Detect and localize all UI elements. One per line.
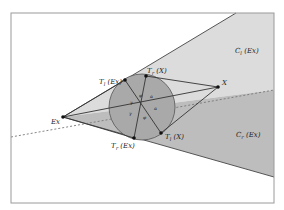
angle-alpha-2: α [154,106,157,111]
label-x: X [221,79,228,87]
angle-gamma-1: γ [130,100,133,105]
label-ex: Ex [50,118,60,126]
label-region-cr: Cr (Ex) [236,131,261,140]
label-tr-x: Tr (X) [147,67,167,76]
point-x [216,85,220,89]
label-tl-ex: Tl (Ex) [99,78,122,87]
label-tr-ex: Tr (Ex) [111,142,135,151]
point-tl-x [159,131,163,135]
point-ex [61,115,65,119]
label-region-cl: Cl (Ex) [235,47,259,56]
angle-gamma-2: γ [129,111,132,116]
point-tl-ex [123,78,127,82]
point-tr-ex [132,136,136,140]
label-tl-x: Tl (X) [165,133,184,142]
diagram-canvas: Ex X Tl (Ex) Tr (X) Tl (X) Tr (Ex) Cl (E… [0,0,284,210]
angle-alpha-1: α [150,94,153,99]
